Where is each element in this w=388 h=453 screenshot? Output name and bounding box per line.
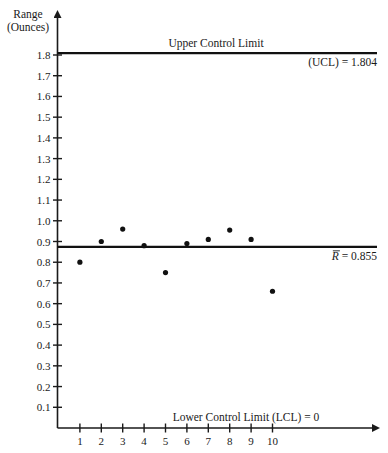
r-bar-symbol: R: [331, 250, 339, 262]
data-point: [142, 243, 147, 248]
y-tick-label: 1.2: [37, 173, 51, 185]
y-tick-label: 1.3: [37, 153, 51, 165]
x-tick-label: 4: [141, 435, 147, 447]
r-bar-label: R = 0.855: [331, 250, 377, 262]
x-tick-label: 1: [77, 435, 83, 447]
y-tick-label: 1.5: [37, 111, 51, 123]
data-point: [120, 226, 125, 231]
y-tick-label: 1.6: [37, 90, 51, 102]
control-chart: Range (Ounces) 0.10.20.30.40.50.60.70.80…: [0, 0, 388, 453]
x-tick-label: 3: [120, 435, 126, 447]
data-point: [99, 239, 104, 244]
y-tick-label: 0.6: [37, 298, 51, 310]
x-tick-label: 7: [206, 435, 212, 447]
y-tick-label: 0.3: [37, 360, 51, 372]
x-tick-label: 9: [248, 435, 254, 447]
y-tick-label: 0.2: [37, 381, 51, 393]
y-tick-label: 0.1: [37, 401, 51, 413]
r-bar-value: = 0.855: [339, 250, 377, 262]
y-tick-label: 0.7: [37, 277, 51, 289]
y-tick-label: 0.5: [37, 318, 51, 330]
y-tick-label: 1.4: [37, 132, 51, 144]
x-tick-label: 6: [184, 435, 190, 447]
y-tick-label: 1.0: [37, 215, 51, 227]
ucl-value-label: (UCL) = 1.804: [308, 56, 377, 69]
data-point: [77, 260, 82, 265]
x-tick-label: 2: [99, 435, 105, 447]
data-point: [227, 228, 232, 233]
x-ticks: 12345678910: [77, 424, 278, 448]
y-tick-label: 0.8: [37, 256, 51, 268]
data-points: [77, 226, 275, 293]
y-tick-label: 0.9: [37, 236, 51, 248]
ucl-title-label: Upper Control Limit: [168, 37, 264, 50]
x-tick-label: 10: [267, 435, 279, 447]
lcl-label: Lower Control Limit (LCL) = 0: [173, 411, 320, 424]
x-tick-label: 8: [227, 435, 233, 447]
y-tick-label: 1.8: [37, 49, 51, 61]
y-tick-label: 0.4: [37, 339, 51, 351]
x-tick-label: 5: [163, 435, 169, 447]
data-point: [249, 237, 254, 242]
data-point: [270, 289, 275, 294]
data-point: [163, 270, 168, 275]
y-tick-label: 1.1: [37, 194, 51, 206]
data-point: [206, 237, 211, 242]
y-axis-title-line1: Range: [13, 8, 42, 21]
y-tick-label: 1.7: [37, 70, 51, 82]
data-point: [184, 241, 189, 246]
y-axis-title-line2: (Ounces): [7, 21, 49, 34]
